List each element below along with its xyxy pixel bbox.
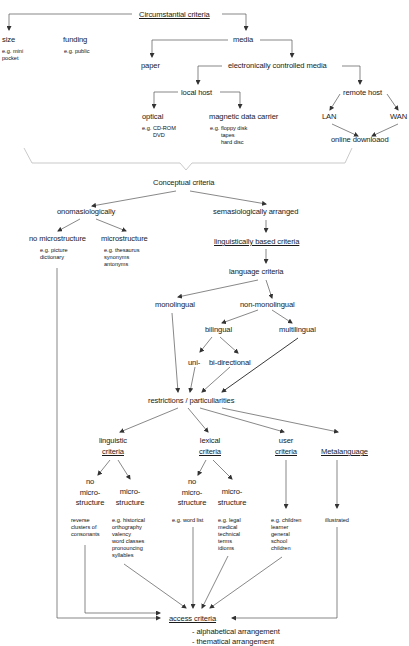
no-microstructure-examples: e.g. picture dictionary: [40, 247, 68, 261]
linguistic-no-micro-examples: reverse clusters of consonants: [71, 517, 100, 538]
node-optical: optical: [142, 112, 163, 121]
access-item-alphabetical: - alphabetical arrangement: [192, 627, 280, 636]
node-monolingual: monolingual: [155, 300, 195, 309]
node-lexical-label: lexical: [196, 436, 224, 445]
user-criteria-examples: e.g. children learner general school chi…: [271, 517, 301, 552]
size-examples: e.g. mini pocket: [2, 48, 23, 62]
criteria-diagram: Circumstantial criteria size e.g. mini p…: [0, 0, 409, 646]
node-circumstantial-criteria: Circumstantial criteria: [139, 10, 210, 19]
linguistic-micro-examples: e.g. historical orthography valency word…: [112, 517, 145, 558]
node-linguistic-no-microstructure: no micro- structure: [73, 477, 107, 509]
node-lexical-microstructure: micro- structure: [215, 487, 249, 508]
node-lexical-criteria: criteria: [196, 447, 224, 456]
node-electronically-controlled-media: electronically controlled media: [228, 61, 327, 70]
node-funding: funding: [63, 35, 87, 44]
node-user-label: user: [272, 436, 300, 445]
lexical-micro-examples: e.g. legal medical technical terms idiom…: [218, 517, 241, 552]
node-user-criteria: criteria: [272, 447, 300, 456]
node-onomasiologically: onomasiologically: [57, 207, 115, 216]
node-non-monolingual: non-monolingual: [240, 300, 295, 309]
node-wan: WAN: [390, 112, 407, 121]
microstructure-examples: e.g. thesaurus synonyms antonyms: [104, 247, 139, 268]
node-linguistically-based-criteria: linguistically based criteria: [214, 237, 299, 246]
node-linguistic-microstructure: micro- structure: [113, 487, 147, 508]
node-conceptual-criteria: Conceptual criteria: [153, 178, 214, 187]
node-media: media: [233, 35, 253, 44]
node-paper: paper: [141, 61, 160, 70]
node-size: size: [2, 35, 15, 44]
node-remote-host: remote host: [343, 88, 382, 97]
node-no-microstructure: no microstructure: [29, 234, 86, 243]
metalanguage-examples: illustrated: [325, 517, 349, 524]
node-lexical-no-microstructure: no micro- structure: [175, 477, 209, 509]
node-bilingual: bilingual: [205, 325, 232, 334]
node-access-criteria: access criteria: [169, 614, 216, 623]
node-lan: LAN: [322, 112, 336, 121]
node-linguistic-criteria: criteria: [98, 447, 128, 456]
access-item-thematical: - thematical arrangement: [192, 637, 274, 646]
node-metalanguage: Metalanguage: [321, 447, 368, 456]
magnetic-examples: e.g. floppy disk tapes hard disc: [210, 125, 247, 146]
node-local-host: local host: [181, 88, 212, 97]
node-semasiologically-arranged: semasiologically arranged: [213, 207, 298, 216]
node-restrictions-particularities: restrictions / particuliarities: [148, 396, 234, 405]
lexical-no-micro-examples: e.g. word list: [172, 517, 203, 524]
node-magnetic-data-carrier: magnetic data carrier: [209, 112, 278, 121]
node-uni: uni-: [188, 358, 200, 367]
node-online-download: online downloaod: [331, 135, 389, 144]
optical-examples: e.g. CD-ROM DVD: [142, 125, 176, 139]
node-language-criteria: language criteria: [229, 267, 283, 276]
node-linguistic-label: linguistic: [98, 436, 128, 445]
funding-examples: e.g. public: [64, 48, 90, 55]
node-multilingual: multilingual: [279, 325, 316, 334]
node-microstructure: microstructure: [101, 234, 148, 243]
node-bi-directional: bi-directional: [209, 358, 251, 367]
